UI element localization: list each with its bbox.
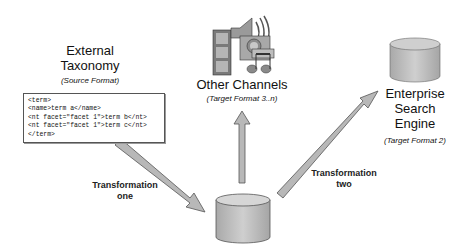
transformation-two-label: Transformation two	[308, 168, 380, 190]
multimedia-channels-icon	[213, 16, 274, 75]
transformation-one-label: Transformation one	[90, 180, 160, 202]
code-line: <name>term a</name>	[28, 105, 160, 113]
code-line: <nt facet="facet 1">term c</nt>	[28, 122, 160, 130]
arrow-to-other-channels	[234, 111, 250, 183]
other-channels-title: Other Channels	[190, 77, 294, 92]
transformation-two-line2: two	[308, 179, 380, 190]
code-line: </term>	[28, 131, 160, 139]
enterprise-search-title: Enterprise Search Engine	[370, 86, 460, 131]
enterprise-title-line1: Enterprise	[370, 86, 460, 101]
other-channels-subtitle: (Target Format 3..n)	[190, 94, 294, 103]
enterprise-search-database-icon	[390, 38, 440, 82]
enterprise-title-line2: Search	[370, 101, 460, 116]
enterprise-search-subtitle: (Target Format 2)	[370, 136, 460, 145]
transformation-one-line2: one	[90, 191, 160, 202]
transformation-one-line1: Transformation	[90, 180, 160, 191]
source-title: External Taxonomy	[38, 43, 142, 73]
code-line: <term>	[28, 97, 160, 105]
source-code-box: <term><name>term a</name><nt facet="face…	[23, 93, 165, 143]
code-line: <nt facet="facet 1">term b</nt>	[28, 114, 160, 122]
source-title-line1: External	[38, 43, 142, 58]
source-title-line2: Taxonomy	[38, 58, 142, 73]
enterprise-title-line3: Engine	[370, 116, 460, 131]
central-database-icon	[216, 194, 270, 243]
source-subtitle: (Source Format)	[38, 76, 142, 85]
transformation-two-line1: Transformation	[308, 168, 380, 179]
